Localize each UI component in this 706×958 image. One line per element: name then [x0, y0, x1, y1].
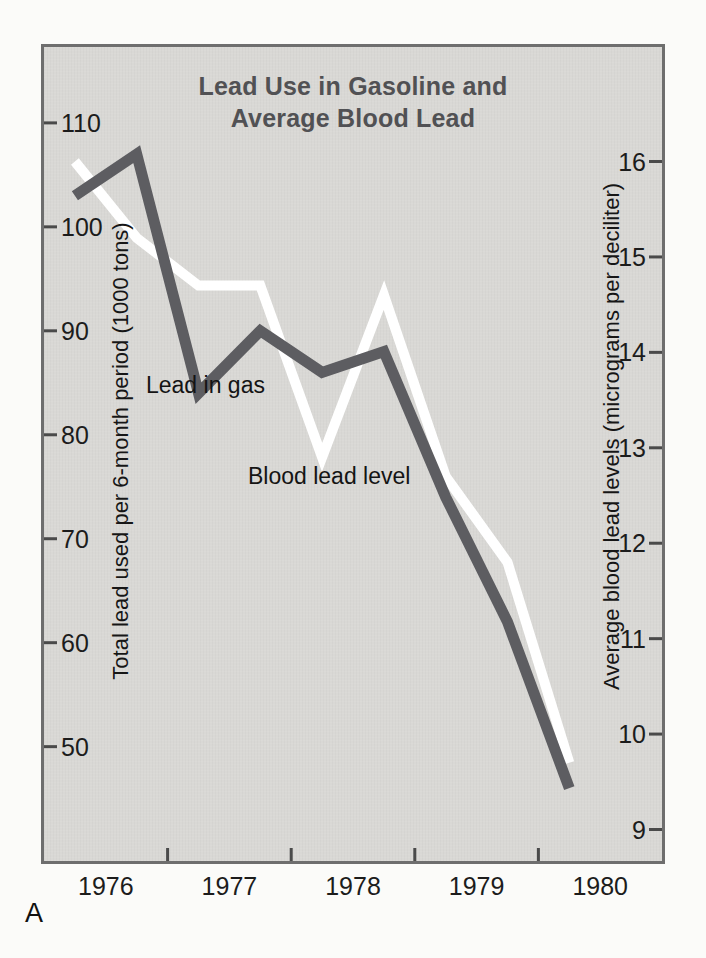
- x-axis-year-label: 1978: [308, 872, 398, 901]
- left-axis-title: Total lead used per 6-month period (1000…: [106, 221, 136, 681]
- panel-letter-label: A: [25, 898, 43, 929]
- x-axis-year-label: 1980: [555, 872, 645, 901]
- left-axis-tick-label: 110: [61, 108, 117, 138]
- right-axis-tick-label: 10: [586, 719, 646, 749]
- chart-title-line-1: Lead Use in Gasoline and: [44, 71, 662, 103]
- figure-panel: Lead Use in Gasoline and Average Blood L…: [0, 0, 706, 958]
- chart-title-line-2: Average Blood Lead: [44, 103, 662, 135]
- series-label-lead-in-gas: Lead in gas: [146, 372, 265, 399]
- series-label-blood-lead-level: Blood lead level: [248, 463, 410, 490]
- chart-canvas: [44, 47, 662, 861]
- chart-title: Lead Use in Gasoline and Average Blood L…: [44, 71, 662, 134]
- right-axis-tick-label: 16: [586, 147, 646, 177]
- right-axis-tick-label: 9: [586, 815, 646, 845]
- x-axis-year-label: 1977: [184, 872, 274, 901]
- right-axis-title: Average blood lead levels (micrograms pe…: [597, 212, 627, 690]
- x-axis-year-label: 1979: [432, 872, 522, 901]
- left-axis-tick-label: 50: [61, 732, 117, 762]
- x-axis-year-label: 1976: [61, 872, 151, 901]
